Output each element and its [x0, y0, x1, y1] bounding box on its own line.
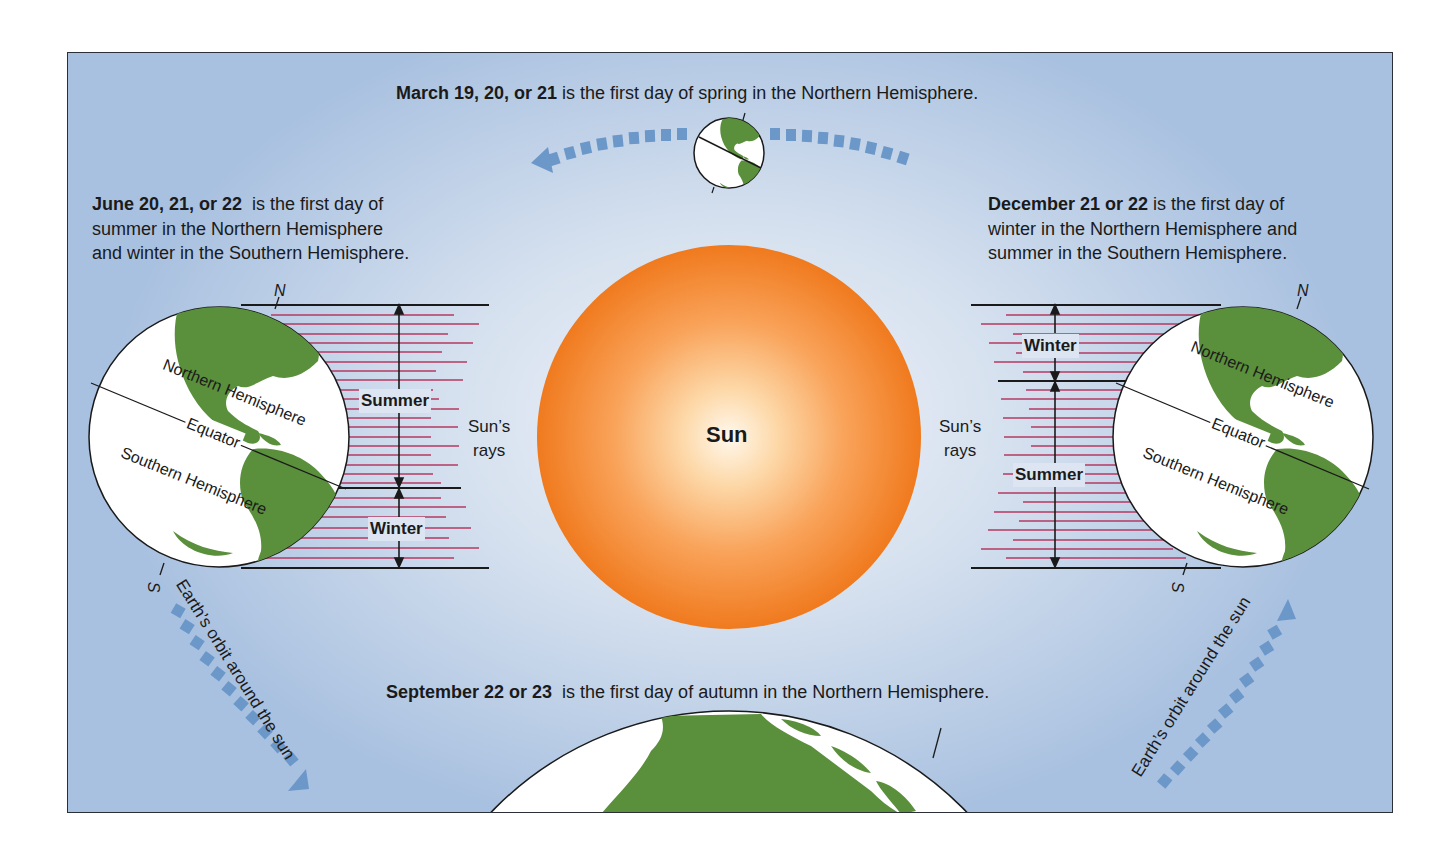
caption-december-date: December 21 or 22 [988, 194, 1148, 214]
caption-december: December 21 or 22 is the first day of wi… [988, 192, 1297, 266]
caption-september-date: September 22 or 23 [386, 682, 552, 702]
caption-december-line2: winter in the Northern Hemisphere and [988, 217, 1297, 242]
caption-june-line2: summer in the Northern Hemisphere [92, 217, 409, 242]
june-rays-label: Sun’s rays [468, 415, 510, 463]
earth-september [399, 711, 1059, 813]
june-zone-summer: Summer [359, 389, 431, 413]
caption-march-text: is the first day of spring in the Northe… [557, 83, 978, 103]
caption-march-date: March 19, 20, or 21 [396, 83, 557, 103]
earth-march [694, 113, 771, 199]
orbit-arrow-top-left [531, 128, 687, 173]
caption-december-line3: summer in the Southern Hemisphere. [988, 241, 1297, 266]
caption-june-line1: is the first day of [242, 194, 383, 214]
december-rays-line2: rays [939, 439, 981, 463]
sun-label: Sun [706, 423, 748, 447]
june-rays-line2: rays [468, 439, 510, 463]
caption-september: September 22 or 23 is the first day of a… [386, 680, 989, 704]
caption-june-line3: and winter in the Southern Hemisphere. [92, 241, 409, 266]
june-north-label: N [274, 279, 286, 303]
caption-june: June 20, 21, or 22 is the first day of s… [92, 192, 409, 266]
december-south-label: S [1165, 582, 1189, 593]
caption-march: March 19, 20, or 21 is the first day of … [396, 81, 978, 105]
caption-september-text: is the first day of autumn in the Northe… [552, 682, 989, 702]
orbit-arrow-top-right [770, 128, 910, 165]
caption-june-date: June 20, 21, or 22 [92, 194, 242, 214]
december-zone-summer: Summer [1013, 463, 1085, 487]
caption-december-line1: is the first day of [1148, 194, 1284, 214]
december-north-label: N [1297, 279, 1309, 303]
june-zone-winter: Winter [368, 517, 425, 541]
diagram-panel: March 19, 20, or 21 is the first day of … [67, 52, 1393, 813]
december-zone-winter: Winter [1022, 334, 1079, 358]
december-rays-line1: Sun’s [939, 415, 981, 439]
june-south-label: S [141, 582, 165, 593]
june-rays-line1: Sun’s [468, 415, 510, 439]
december-rays-label: Sun’s rays [939, 415, 981, 463]
